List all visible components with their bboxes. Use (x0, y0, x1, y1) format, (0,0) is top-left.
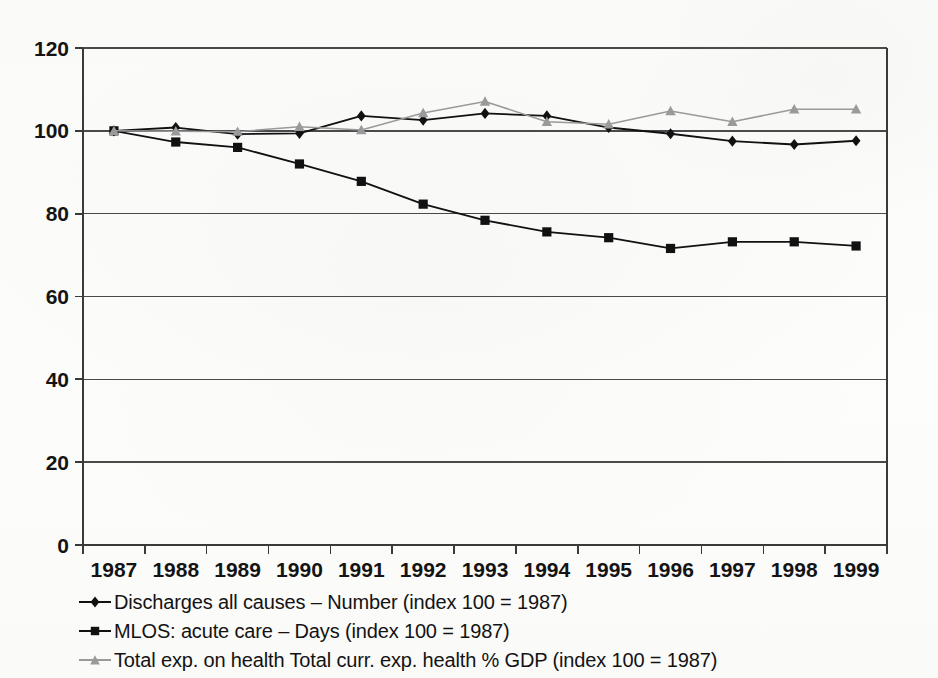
square-marker-icon (78, 621, 112, 641)
y-axis-tick-label: 60 (46, 285, 69, 308)
x-axis-tick-label: 1995 (585, 558, 632, 581)
y-axis-tick-label: 80 (46, 202, 69, 225)
x-axis-tick-label: 1994 (523, 558, 570, 581)
y-axis-tick-label: 20 (46, 451, 69, 474)
data-series (110, 108, 861, 150)
line-chart: 020406080100120 198719881989199019911992… (0, 0, 938, 678)
x-axis-tick-label: 1993 (462, 558, 509, 581)
x-axis-tick-label: 1991 (338, 558, 385, 581)
data-point-marker (481, 108, 490, 119)
data-point-marker (790, 139, 799, 150)
x-axis-tick-label: 1987 (91, 558, 138, 581)
data-point-marker (233, 143, 242, 152)
x-axis-tick-label: 1988 (152, 558, 199, 581)
data-point-marker (542, 227, 551, 236)
legend-item-mlos: MLOS: acute care – Days (index 100 = 198… (78, 618, 510, 644)
data-point-marker (480, 216, 489, 225)
y-axis-tick-label: 100 (34, 119, 69, 142)
data-point-marker (666, 128, 675, 139)
data-point-marker (357, 110, 366, 121)
data-point-marker (171, 137, 180, 146)
data-point-marker (852, 135, 861, 146)
data-series-group (109, 96, 862, 253)
x-axis-tick-label: 1999 (833, 558, 880, 581)
data-point-marker (665, 106, 675, 115)
data-point-marker (419, 200, 428, 209)
data-point-marker (357, 177, 366, 186)
legend-label-mlos: MLOS: acute care – Days (index 100 = 198… (114, 620, 510, 643)
x-axis-ticks (83, 545, 887, 554)
x-axis-tick-label: 1990 (276, 558, 323, 581)
diamond-marker-icon (78, 592, 112, 612)
data-series (109, 126, 860, 253)
data-point-marker (604, 233, 613, 242)
data-point-marker (666, 244, 675, 253)
x-axis-tick-label: 1998 (771, 558, 818, 581)
y-axis-tick-label: 120 (34, 37, 69, 60)
chart-page: 020406080100120 198719881989199019911992… (0, 0, 938, 678)
y-axis-tick-label: 40 (46, 368, 69, 391)
x-axis-tick-label: 1997 (709, 558, 756, 581)
legend-item-discharges: Discharges all causes – Number (index 10… (78, 589, 567, 615)
data-point-marker (295, 159, 304, 168)
x-axis-tick-label: 1989 (214, 558, 261, 581)
data-point-marker (851, 241, 860, 250)
y-axis-tick-label: 0 (57, 534, 69, 557)
x-axis-tick-label: 1996 (647, 558, 694, 581)
data-point-marker (728, 136, 737, 147)
data-point-marker (728, 237, 737, 246)
triangle-marker-icon (78, 650, 112, 670)
x-axis-tick-label: 1992 (400, 558, 447, 581)
legend-label-discharges: Discharges all causes – Number (index 10… (114, 591, 567, 614)
legend-label-total-exp: Total exp. on health Total curr. exp. he… (114, 649, 717, 672)
data-point-marker (480, 96, 490, 105)
y-axis-tick-labels: 020406080100120 (34, 37, 69, 557)
x-axis-tick-labels: 1987198819891990199119921993199419951996… (91, 558, 880, 581)
data-point-marker (790, 237, 799, 246)
legend-item-total-exp: Total exp. on health Total curr. exp. he… (78, 647, 717, 673)
